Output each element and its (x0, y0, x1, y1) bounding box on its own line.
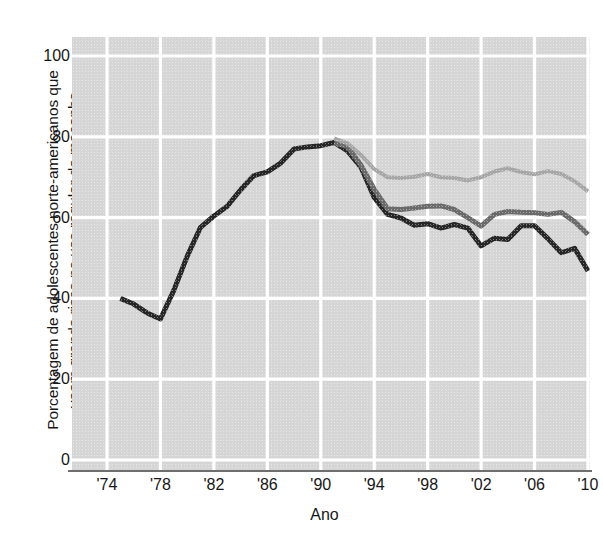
series-line (120, 142, 588, 319)
y-tick-label: 40 (30, 289, 70, 307)
x-axis-title: Ano (0, 506, 603, 524)
plot-area (72, 37, 590, 470)
x-tick-label: '74 (79, 476, 135, 494)
y-axis-tick-labels: 020406080100 (26, 37, 70, 470)
y-tick-label: 100 (30, 47, 70, 65)
x-tick-label: '78 (132, 476, 188, 494)
chart-figure: Porcentagem de adolescentes norte-americ… (0, 0, 603, 537)
y-tick-label: 0 (30, 451, 70, 469)
x-tick-label: '94 (346, 476, 402, 494)
data-series-layer (120, 138, 588, 319)
y-tick-label: 80 (30, 128, 70, 146)
y-tick-label: 60 (30, 209, 70, 227)
x-tick-label: '82 (186, 476, 242, 494)
plot-canvas (72, 37, 590, 470)
x-tick-label: '98 (400, 476, 456, 494)
x-tick-label: '10 (560, 476, 603, 494)
series-line (334, 143, 588, 235)
x-tick-label: '90 (293, 476, 349, 494)
x-axis-line (68, 470, 592, 472)
gridlines (72, 37, 590, 470)
x-tick-label: '06 (507, 476, 563, 494)
y-tick-label: 20 (30, 370, 70, 388)
x-axis-tick-labels: '74'78'82'86'90'94'98'02'06'10 (72, 476, 590, 502)
x-tick-label: '86 (239, 476, 295, 494)
x-tick-label: '02 (453, 476, 509, 494)
